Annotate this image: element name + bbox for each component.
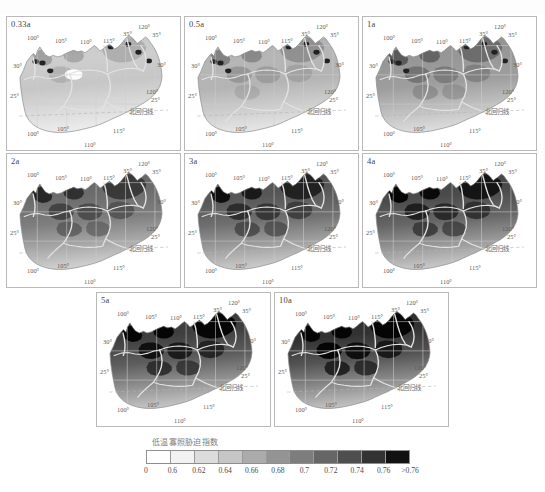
coordinate-label: 100° [27,130,39,137]
coordinate-label: 30° [157,61,166,68]
coordinate-label: 110° [80,38,92,45]
stress-hotspot [395,60,401,65]
coordinate-label: 35° [330,168,339,175]
coordinate-label: 120° [316,160,328,167]
coordinate-label: 115° [103,37,115,44]
coordinate-label: 110° [84,278,96,285]
coordinate-label: 100° [205,171,217,178]
coordinate-label: 25° [329,96,338,103]
tropic-of-cancer-label: 北回归线 [397,383,421,392]
coordinate-label: 115° [469,127,481,134]
coordinate-label: 120° [146,225,158,232]
legend-swatch [195,451,219,463]
coordinate-label: 120° [406,299,418,306]
coordinate-label: 25° [188,229,197,236]
map-panel-1a[interactable]: 1a100°105°110°115°120°35°35°30°30°25°120… [362,16,537,151]
legend-swatch [147,451,171,463]
tropic-of-cancer-label: 北回归线 [219,383,243,392]
coordinate-label: 35° [123,167,132,174]
coordinate-label: 30° [103,338,112,345]
coordinate-label: 100° [383,130,395,137]
stress-hotspot [135,50,141,55]
legend-swatch [338,451,362,463]
legend-tick: >0.76 [401,466,419,475]
coordinate-label: 25° [507,96,516,103]
coordinate-label: 115° [291,127,303,134]
map-panel-2a[interactable]: 2a100°105°110°115°120°35°35°30°30°25°120… [6,153,181,288]
coordinate-label: 120° [324,88,336,95]
legend-tick: 0.76 [377,466,390,475]
coordinate-label: 120° [414,364,426,371]
coordinate-label: 100° [205,34,217,41]
stress-hotspot [47,68,53,73]
coordinate-label: 105° [55,174,67,181]
coordinate-label: 100° [295,310,307,317]
map-panel-10a[interactable]: 10a100°105°110°115°120°35°35°30°30°25°12… [274,292,449,427]
coordinate-label: 115° [459,37,471,44]
coordinate-label: 25° [241,372,250,379]
coordinate-label: 110° [258,175,270,182]
legend-tick: 0.72 [324,466,337,475]
panel-label: 5a [101,295,109,305]
coordinate-label: 25° [10,92,19,99]
coordinate-label: 25° [151,96,160,103]
map-panel-0-33a[interactable]: 0.33a100°105°110°115°120°35°35°30°30°25°… [6,16,181,151]
tropic-of-cancer-label: 北回归线 [485,107,509,116]
coordinate-label: 30° [513,198,522,205]
coordinate-label: 120° [502,225,514,232]
tropic-of-cancer-label: 北回归线 [485,244,509,253]
coordinate-label: 30° [369,62,378,69]
coordinate-label: 100° [295,406,307,413]
coordinate-label: 25° [188,92,197,99]
coordinate-label: 120° [494,160,506,167]
coordinate-label: 115° [281,174,293,181]
coordinate-label: 100° [117,310,129,317]
coordinate-label: 35° [213,306,222,313]
legend-tick: 0.6 [168,466,178,475]
coordinate-label: 115° [113,127,125,134]
coordinate-label: 110° [170,314,182,321]
coordinate-label: 115° [381,403,393,410]
coordinate-label: 120° [146,88,158,95]
map-panel-3a[interactable]: 3a100°105°110°115°120°35°35°30°30°25°120… [184,153,359,288]
coordinate-label: 115° [113,264,125,271]
legend-swatch [362,451,386,463]
coordinate-label: 105° [411,174,423,181]
coordinate-label: 100° [117,406,129,413]
legend-tick: 0.68 [271,466,284,475]
coordinate-label: 25° [10,229,19,236]
panel-label: 0.33a [11,19,31,29]
stress-hotspot [491,50,497,55]
page-top-strip [0,0,545,14]
legend-swatch [314,451,338,463]
legend-swatch [219,451,243,463]
figure-root: 0.33a100°105°110°115°120°35°35°30°30°25°… [0,0,545,492]
coordinate-label: 105° [145,313,157,320]
coordinate-label: 100° [383,267,395,274]
coordinate-label: 30° [335,198,344,205]
coordinate-label: 25° [329,233,338,240]
coordinate-label: 35° [123,30,132,37]
coordinate-label: 100° [383,34,395,41]
map-panel-5a[interactable]: 5a100°105°110°115°120°35°35°30°30°25°120… [96,292,271,427]
legend-swatch [290,451,314,463]
map-panel-4a[interactable]: 4a100°105°110°115°120°35°35°30°30°25°120… [362,153,537,288]
legend-swatch [243,451,267,463]
map-panel-0-5a[interactable]: 0.5a100°105°110°115°120°35°35°30°30°25°1… [184,16,359,151]
coordinate-label: 110° [436,175,448,182]
coordinate-label: 30° [513,61,522,68]
coordinate-label: 35° [152,31,161,38]
coordinate-label: 100° [27,171,39,178]
coordinate-label: 105° [325,401,337,408]
coordinate-label: 115° [469,264,481,271]
coordinate-label: 115° [103,174,115,181]
panel-label: 4a [367,156,375,166]
coordinate-label: 115° [203,403,215,410]
legend-colorbar [146,450,410,464]
coordinate-label: 105° [323,313,335,320]
coordinate-label: 35° [391,306,400,313]
tropic-of-cancer-label: 北回归线 [307,107,331,116]
legend-swatch [386,451,409,463]
legend-tick: 0.66 [245,466,258,475]
coordinate-label: 120° [228,299,240,306]
